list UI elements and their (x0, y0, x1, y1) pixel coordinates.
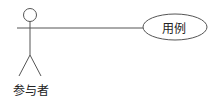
actor-head (24, 9, 37, 22)
actor-right-leg (30, 55, 41, 76)
actor-figure (19, 9, 41, 77)
actor-label: 参与者 (13, 81, 49, 98)
use-case-label: 用例 (162, 19, 186, 36)
actor-left-leg (19, 55, 30, 76)
